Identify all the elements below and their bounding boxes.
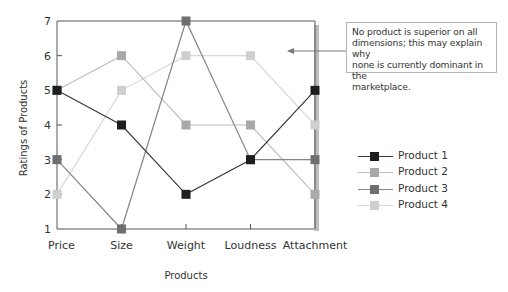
y-axis-title: Ratings of Products (18, 80, 29, 177)
square-marker-icon (370, 168, 379, 177)
data-point-marker (311, 190, 320, 199)
data-point-marker (182, 121, 191, 130)
series-line-1 (57, 90, 315, 194)
legend-item-product-3: Product 3 (356, 182, 506, 198)
y-tick-label: 3 (44, 154, 51, 167)
data-point-marker (246, 155, 255, 164)
x-axis-title: Products (164, 270, 207, 281)
x-tick-label: Size (110, 239, 133, 252)
legend-label: Product 1 (398, 149, 448, 161)
data-point-marker (311, 121, 320, 130)
legend-label: Product 4 (398, 198, 448, 210)
data-point-marker (53, 190, 62, 199)
y-tick-label: 4 (44, 119, 51, 132)
data-point-marker (311, 155, 320, 164)
data-point-marker (246, 51, 255, 60)
data-point-marker (182, 51, 191, 60)
data-point-marker (182, 190, 191, 199)
data-point-marker (246, 121, 255, 130)
data-point-marker (53, 86, 62, 95)
data-point-marker (117, 51, 126, 60)
square-marker-icon (370, 185, 379, 194)
legend-label: Product 3 (398, 182, 448, 194)
data-point-marker (311, 86, 320, 95)
x-tick-label: Loudness (225, 239, 277, 252)
chart-legend: Product 1 Product 2 Product 3 Product 4 (356, 149, 506, 214)
plot-area: 1234567PriceSizeWeightLoudnessAttachment… (18, 15, 348, 281)
legend-item-product-4: Product 4 (356, 198, 506, 214)
legend-item-product-2: Product 2 (356, 165, 506, 181)
annotation-line: No product is superior on all (352, 26, 491, 37)
y-tick-label: 7 (44, 15, 51, 28)
data-point-marker (53, 155, 62, 164)
square-marker-icon (370, 201, 379, 210)
data-point-marker (182, 17, 191, 26)
data-point-marker (117, 225, 126, 234)
x-tick-label: Weight (167, 239, 206, 252)
annotation-line: dimensions; this may explain why (352, 37, 491, 59)
x-tick-label: Price (48, 239, 75, 252)
legend-item-product-1: Product 1 (356, 149, 506, 165)
arrow-head-icon (287, 48, 294, 54)
data-point-marker (117, 86, 126, 95)
legend-label: Product 2 (398, 165, 448, 177)
annotation-callout: No product is superior on all dimensions… (346, 22, 497, 73)
annotation-line: marketplace. (352, 81, 491, 92)
data-point-marker (117, 121, 126, 130)
square-marker-icon (370, 152, 379, 161)
y-tick-label: 2 (44, 188, 51, 201)
y-tick-label: 5 (44, 84, 51, 97)
y-tick-label: 6 (44, 50, 51, 63)
x-tick-label: Attachment (283, 239, 348, 252)
y-tick-label: 1 (44, 223, 51, 236)
annotation-line: none is currently dominant in the (352, 59, 491, 81)
